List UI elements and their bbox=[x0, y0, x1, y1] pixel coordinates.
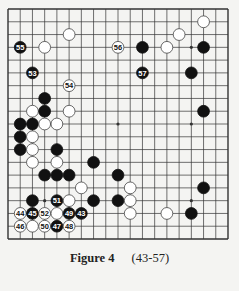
move-number: 56 bbox=[114, 43, 122, 52]
black-stone bbox=[51, 169, 63, 181]
black-stone bbox=[112, 195, 124, 207]
white-stone bbox=[27, 144, 39, 156]
move-number: 50 bbox=[40, 222, 48, 231]
white-stone bbox=[51, 208, 63, 220]
white-stone bbox=[27, 220, 39, 232]
white-stone bbox=[39, 118, 51, 130]
move-number: 43 bbox=[77, 209, 85, 218]
black-stone-55: 55 bbox=[14, 41, 26, 53]
black-stone bbox=[39, 105, 51, 117]
black-stone bbox=[27, 118, 39, 130]
white-stone bbox=[51, 118, 63, 130]
white-stone bbox=[51, 156, 63, 168]
black-stone bbox=[63, 169, 75, 181]
white-stone-50: 50 bbox=[39, 220, 51, 232]
white-stone bbox=[124, 208, 136, 220]
black-stone-51: 51 bbox=[51, 195, 63, 207]
move-number: 46 bbox=[16, 222, 24, 231]
black-stone bbox=[137, 41, 149, 53]
black-stone bbox=[198, 41, 210, 53]
star-point bbox=[116, 122, 119, 125]
black-stone bbox=[88, 195, 100, 207]
go-board: 555653575451444552494346504748 bbox=[0, 0, 239, 250]
black-stone bbox=[51, 144, 63, 156]
figure-label: Figure 4 bbox=[70, 251, 115, 265]
move-number: 44 bbox=[16, 209, 25, 218]
white-stone bbox=[39, 41, 51, 53]
white-stone-48: 48 bbox=[63, 220, 75, 232]
black-stone bbox=[198, 182, 210, 194]
white-stone-44: 44 bbox=[14, 208, 26, 220]
black-stone-45: 45 bbox=[27, 208, 39, 220]
white-stone bbox=[27, 131, 39, 143]
white-stone bbox=[124, 182, 136, 194]
star-point bbox=[190, 122, 193, 125]
black-stone bbox=[14, 144, 26, 156]
white-stone bbox=[75, 182, 87, 194]
black-stone bbox=[39, 93, 51, 105]
move-number: 55 bbox=[16, 43, 24, 52]
move-number: 48 bbox=[65, 222, 73, 231]
move-number: 54 bbox=[65, 81, 74, 90]
star-point bbox=[43, 199, 46, 202]
white-stone bbox=[27, 105, 39, 117]
white-stone bbox=[198, 16, 210, 28]
figure-caption: Figure 4 (43-57) bbox=[0, 251, 239, 266]
white-stone-56: 56 bbox=[112, 41, 124, 53]
white-stone bbox=[63, 105, 75, 117]
white-stone bbox=[27, 156, 39, 168]
star-point bbox=[190, 199, 193, 202]
move-range: (43-57) bbox=[132, 251, 170, 265]
black-stone-57: 57 bbox=[137, 67, 149, 79]
black-stone bbox=[185, 208, 197, 220]
black-stone bbox=[88, 156, 100, 168]
black-stone bbox=[185, 67, 197, 79]
move-number: 51 bbox=[53, 196, 61, 205]
move-number: 53 bbox=[28, 69, 36, 78]
black-stone bbox=[27, 195, 39, 207]
black-stone-53: 53 bbox=[27, 67, 39, 79]
black-stone bbox=[14, 131, 26, 143]
black-stone bbox=[198, 105, 210, 117]
white-stone-54: 54 bbox=[63, 80, 75, 92]
white-stone bbox=[124, 195, 136, 207]
white-stone-52: 52 bbox=[39, 208, 51, 220]
move-number: 52 bbox=[40, 209, 48, 218]
white-stone bbox=[63, 29, 75, 41]
black-stone bbox=[14, 118, 26, 130]
star-point bbox=[190, 46, 193, 49]
black-stone-49: 49 bbox=[63, 208, 75, 220]
move-number: 57 bbox=[138, 69, 146, 78]
move-number: 45 bbox=[28, 209, 36, 218]
white-stone bbox=[173, 29, 185, 41]
white-stone bbox=[161, 41, 173, 53]
move-number: 47 bbox=[53, 222, 61, 231]
white-stone-46: 46 bbox=[14, 220, 26, 232]
black-stone-43: 43 bbox=[75, 208, 87, 220]
black-stone-47: 47 bbox=[51, 220, 63, 232]
white-stone bbox=[63, 195, 75, 207]
black-stone bbox=[39, 169, 51, 181]
white-stone bbox=[161, 208, 173, 220]
move-number: 49 bbox=[65, 209, 73, 218]
black-stone bbox=[112, 169, 124, 181]
